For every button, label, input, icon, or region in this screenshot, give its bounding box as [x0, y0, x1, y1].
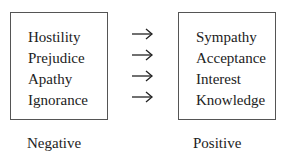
negative-item: Prejudice — [28, 48, 88, 69]
negative-box: Hostility Prejudice Apathy Ignorance — [10, 12, 108, 120]
negative-item: Apathy — [28, 69, 88, 90]
positive-item: Sympathy — [196, 27, 266, 48]
arrow-right-icon — [131, 45, 155, 66]
positive-list: Sympathy Acceptance Interest Knowledge — [196, 27, 266, 111]
negative-item: Hostility — [28, 27, 88, 48]
arrow-column — [131, 24, 155, 108]
positive-item: Acceptance — [196, 48, 266, 69]
positive-label: Positive — [193, 133, 241, 153]
positive-box: Sympathy Acceptance Interest Knowledge — [178, 12, 276, 120]
arrow-right-icon — [131, 87, 155, 108]
positive-item: Interest — [196, 69, 266, 90]
arrow-right-icon — [131, 66, 155, 87]
positive-item: Knowledge — [196, 90, 266, 111]
negative-list: Hostility Prejudice Apathy Ignorance — [28, 27, 88, 111]
negative-label: Negative — [27, 133, 81, 153]
arrow-right-icon — [131, 24, 155, 45]
negative-item: Ignorance — [28, 90, 88, 111]
